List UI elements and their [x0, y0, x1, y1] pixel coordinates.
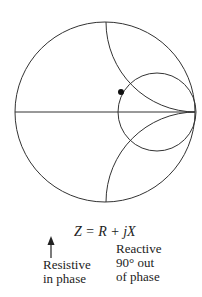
reactive-label: Reactive 90° out of phase — [116, 242, 161, 284]
smith-chart — [0, 0, 202, 297]
impedance-point — [118, 89, 124, 95]
reactive-line-2: 90° out — [116, 256, 161, 270]
arrow-icon — [48, 236, 55, 258]
reactive-line-1: Reactive — [116, 242, 161, 256]
impedance-equation: Z = R + jX — [74, 225, 136, 239]
reactance-arc-positive — [106, 0, 202, 112]
resistive-label: Resistive in phase — [43, 258, 91, 286]
reactive-line-3: of phase — [116, 270, 161, 284]
resistive-line-2: in phase — [43, 272, 91, 286]
resistive-line-1: Resistive — [43, 258, 91, 272]
